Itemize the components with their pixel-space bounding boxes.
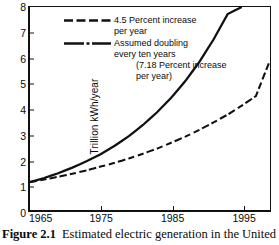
y-tick-mark (30, 161, 34, 162)
x-tick-mark (244, 206, 245, 210)
y-tick-mark (30, 187, 34, 188)
figure-caption-label: Figure 2.1 (2, 227, 56, 241)
y-tick-label: 0 (20, 208, 26, 219)
legend-label-line3: (7.18 Percent increase (136, 60, 274, 71)
y-tick-mark (30, 110, 34, 111)
y-tick-label: 3 (20, 131, 26, 142)
legend-label-line1: 4.5 Percent increase (114, 15, 197, 26)
y-tick-mark (30, 84, 34, 85)
y-tick-label: 2 (20, 156, 26, 167)
x-tick-label: 1995 (232, 213, 255, 224)
legend-entry-assumed-doubling: Assumed doubling every ten years (7.18 P… (64, 38, 274, 82)
dash-dot-line-icon (64, 39, 111, 48)
figure-caption: Figure 2.1Estimated electric generation … (2, 227, 279, 242)
chart-legend: 4.5 Percent increase per year Assumed do… (64, 15, 274, 83)
y-tick-label: 8 (20, 2, 26, 13)
y-tick-label: 7 (20, 28, 26, 39)
figure-2-1: 012345678 1965197519851995 Trillion kWh/… (0, 0, 279, 245)
y-tick-mark (30, 58, 34, 59)
legend-label-line2: every ten years (114, 49, 274, 60)
y-tick-label: 1 (20, 182, 26, 193)
y-tick-label: 4 (20, 105, 26, 116)
legend-entry-4-5-percent: 4.5 Percent increase per year (64, 15, 274, 37)
y-tick-mark (30, 32, 34, 33)
x-tick-label: 1985 (161, 213, 184, 224)
x-tick-label: 1975 (89, 213, 112, 224)
x-tick-label: 1965 (29, 213, 52, 224)
figure-caption-text: Estimated electric generation in the Uni… (62, 227, 276, 241)
y-tick-label: 5 (20, 79, 26, 90)
dashed-line-icon (64, 16, 111, 25)
x-tick-mark (101, 206, 102, 210)
chart-plot-area: 012345678 1965197519851995 Trillion kWh/… (28, 6, 271, 212)
legend-label-line1: Assumed doubling (114, 38, 188, 49)
y-tick-label: 6 (20, 53, 26, 64)
x-tick-mark (173, 206, 174, 210)
legend-label-line2: per year (114, 26, 274, 37)
legend-label-line4: per year) (136, 71, 274, 82)
y-tick-mark (30, 135, 34, 136)
